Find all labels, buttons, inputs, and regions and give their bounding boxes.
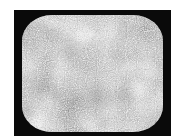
tv-screen-static bbox=[22, 15, 163, 132]
static-noise bbox=[22, 15, 163, 132]
tv-frame bbox=[14, 10, 171, 136]
